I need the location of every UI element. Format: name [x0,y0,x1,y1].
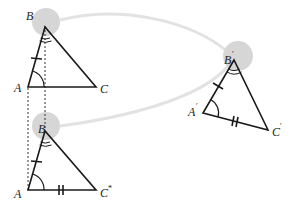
label-top-B: B [26,9,34,23]
label-right-B: B [224,53,232,67]
congruence-diagram: B A C B A C * B ′ A ′ C ′ [0,0,299,210]
label-right-B-prime: ′ [232,50,234,59]
label-right-A: A [187,105,196,119]
label-top-A: A [13,81,22,95]
connector-arc-top [60,14,228,52]
triangle-bottom [28,131,96,195]
triangle-top [28,27,96,87]
highlight-circle-bottom-B [32,112,60,140]
highlight-circle-top-B [32,8,60,36]
label-right-A-prime: ′ [196,102,198,111]
label-top-C: C [100,82,109,96]
triangle-right [203,60,268,130]
label-right-C-prime: ′ [280,122,282,131]
label-bottom-A: A [13,187,22,201]
label-bottom-C-star: * [108,184,112,193]
label-bottom-B: B [38,122,46,136]
